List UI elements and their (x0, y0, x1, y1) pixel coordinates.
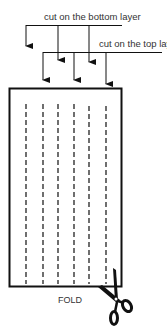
top-layer-leader (43, 52, 162, 84)
label-bottom-layer: cut on the bottom layer (44, 11, 141, 22)
cutting-diagram: cut on the bottom layer cut on the top l… (0, 0, 167, 330)
label-fold: FOLD (58, 295, 83, 305)
label-top-layer: cut on the top layer (99, 38, 167, 49)
